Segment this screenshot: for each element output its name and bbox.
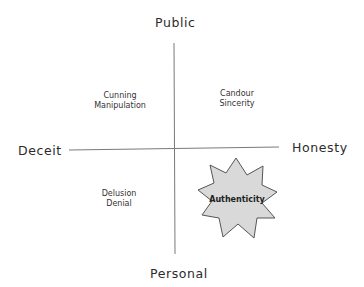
quadrant-top-right-line1: Candour xyxy=(219,89,254,99)
quadrant-top-right: Candour Sincerity xyxy=(219,89,254,109)
axis-label-top: Public xyxy=(155,15,196,30)
quadrant-bottom-left-line1: Delusion xyxy=(102,189,137,199)
axis-label-left: Deceit xyxy=(18,143,62,158)
authenticity-label: Authenticity xyxy=(209,195,265,204)
quadrant-top-right-line2: Sincerity xyxy=(219,99,254,109)
axis-label-right: Honesty xyxy=(292,140,348,155)
quadrant-top-left-line2: Manipulation xyxy=(94,101,146,111)
quadrant-top-left: Cunning Manipulation xyxy=(94,91,146,111)
quadrant-bottom-left-line2: Denial xyxy=(102,199,137,209)
quadrant-bottom-left: Delusion Denial xyxy=(102,189,137,209)
quadrant-top-left-line1: Cunning xyxy=(94,91,146,101)
axis-label-bottom: Personal xyxy=(150,266,208,281)
